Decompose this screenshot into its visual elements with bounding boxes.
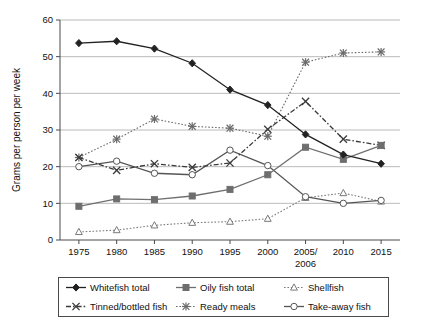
series-ready-meals-marker-2: [150, 115, 158, 123]
series-ready-meals-marker-4: [226, 124, 234, 132]
legend-row-top: Whitefish total Oily fish total Shellfis…: [59, 278, 388, 297]
series-oily-fish-total-marker-5: [265, 172, 271, 178]
series-whitefish-total-marker-2: [151, 45, 158, 52]
series-line-whitefish-total: [79, 41, 381, 163]
legend-label-whitefish-total: Whitefish total: [90, 282, 150, 293]
series-line-take-away-fish: [79, 150, 381, 203]
series-take-away-fish: [76, 147, 385, 207]
chart-container: 0102030405060Grams per person per week19…: [0, 0, 448, 326]
x-tick-label-5: 2000: [257, 246, 278, 257]
legend-swatch-shellfish: [283, 282, 305, 293]
legend-swatch-whitefish-total: [65, 282, 87, 293]
series-whitefish-total-marker-4: [227, 86, 234, 93]
series-ready-meals-marker-7: [339, 49, 347, 57]
series-take-away-fish-marker-8: [378, 197, 384, 203]
y-tick-label-0: 0: [48, 234, 53, 245]
series-oily-fish-total-marker-1: [114, 196, 120, 202]
legend-swatch-tinned-bottled-fish: [65, 301, 87, 312]
legend-item-shellfish[interactable]: Shellfish: [283, 282, 383, 293]
legend-item-ready-meals[interactable]: Ready meals: [175, 301, 283, 312]
series-shellfish: [75, 189, 384, 234]
series-take-away-fish-marker-3: [189, 172, 195, 178]
series-oily-fish-total-marker-8: [378, 142, 384, 148]
legend-label-oily-fish-total: Oily fish total: [200, 282, 254, 293]
x-tick-label-4: 1995: [219, 246, 240, 257]
series-take-away-fish-marker-4: [227, 147, 233, 153]
legend-label-take-away-fish: Take-away fish: [308, 301, 371, 312]
x-tick-label-1: 1980: [106, 246, 127, 257]
legend-item-take-away-fish[interactable]: Take-away fish: [283, 301, 383, 312]
series-whitefish-total-marker-8: [378, 160, 385, 167]
legend-marker-5: [291, 303, 297, 309]
y-tick-label-30: 30: [42, 124, 53, 135]
chart-legend: Whitefish total Oily fish total Shellfis…: [58, 277, 389, 317]
x-tick-label-7: 2010: [333, 246, 354, 257]
x-axis-group: 1975198019851990199520002005/20062010201…: [68, 240, 391, 269]
x-tick-label-8: 2015: [371, 246, 392, 257]
series-ready-meals-marker-6: [302, 58, 310, 66]
legend-item-tinned-bottled-fish[interactable]: Tinned/bottled fish: [65, 301, 175, 312]
series-oily-fish-total-marker-0: [76, 203, 82, 209]
y-tick-label-50: 50: [42, 51, 53, 62]
x-tick-label-0: 1975: [68, 246, 89, 257]
series-take-away-fish-marker-6: [302, 194, 308, 200]
legend-item-whitefish-total[interactable]: Whitefish total: [65, 282, 175, 293]
series-oily-fish-total-marker-2: [151, 197, 157, 203]
series-tinned-bottled-fish-marker-1: [113, 167, 120, 174]
legend-label-shellfish: Shellfish: [308, 282, 344, 293]
series-line-ready-meals: [79, 52, 381, 158]
y-axis-group: 0102030405060: [42, 14, 60, 245]
series-take-away-fish-marker-5: [265, 162, 271, 168]
series-ready-meals-marker-1: [113, 135, 121, 143]
series-line-tinned-bottled-fish: [79, 101, 381, 170]
legend-swatch-take-away-fish: [283, 301, 305, 312]
series-whitefish-total-marker-0: [76, 40, 83, 47]
series-shellfish-marker-7: [340, 189, 347, 195]
legend-label-ready-meals: Ready meals: [200, 301, 255, 312]
y-tick-label-60: 60: [42, 14, 53, 25]
series-shellfish-marker-5: [264, 215, 271, 221]
series-ready-meals-marker-5: [264, 132, 272, 140]
series-oily-fish-total-marker-3: [189, 193, 195, 199]
x-tick-label-6: 2005/: [294, 246, 318, 257]
legend-swatch-ready-meals: [175, 301, 197, 312]
series-take-away-fish-marker-1: [113, 158, 119, 164]
series-tinned-bottled-fish-marker-6: [302, 98, 309, 105]
series-tinned-bottled-fish-marker-5: [264, 126, 271, 133]
legend-swatch-oily-fish-total: [175, 282, 197, 293]
y-tick-label-40: 40: [42, 88, 53, 99]
series-shellfish-marker-0: [75, 228, 82, 234]
series-ready-meals-marker-3: [188, 122, 196, 130]
legend-marker-0: [73, 284, 80, 291]
series-ready-meals-marker-8: [377, 48, 385, 56]
legend-marker-1: [183, 285, 189, 291]
y-axis-title: Grams per person per week: [11, 67, 22, 192]
series-line-oily-fish-total: [79, 145, 381, 206]
series-take-away-fish-marker-0: [76, 163, 82, 169]
series-take-away-fish-marker-7: [340, 200, 346, 206]
x-tick-label-3: 1990: [182, 246, 203, 257]
series-oily-fish-total-marker-6: [303, 144, 309, 150]
series-whitefish-total-marker-3: [189, 60, 196, 67]
x-tick-label-2: 1985: [144, 246, 165, 257]
legend-label-tinned-bottled-fish: Tinned/bottled fish: [90, 301, 167, 312]
series-take-away-fish-marker-2: [151, 170, 157, 176]
legend-marker-4: [182, 303, 190, 311]
legend-row-bottom: Tinned/bottled fish Ready meals Take-awa…: [59, 297, 388, 316]
series-whitefish-total-marker-1: [113, 38, 120, 45]
series-shellfish-marker-1: [113, 227, 120, 233]
series-ready-meals: [75, 48, 385, 162]
y-tick-label-20: 20: [42, 161, 53, 172]
y-tick-label-10: 10: [42, 198, 53, 209]
x-tick-label-6: 2006: [295, 258, 316, 269]
series-oily-fish-total-marker-4: [227, 186, 233, 192]
legend-item-oily-fish-total[interactable]: Oily fish total: [175, 282, 283, 293]
